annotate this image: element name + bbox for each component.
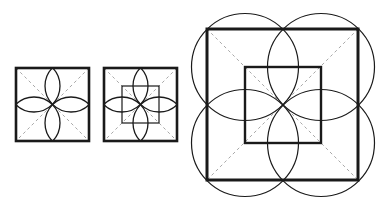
- figure-square-with-arcs-and-inner-square: [96, 60, 185, 149]
- geometric-construction-diagram: [0, 0, 389, 209]
- figure-four-circles-two-squares: [192, 14, 375, 197]
- diagram-canvas: [0, 0, 389, 209]
- figure-square-with-arcs: [8, 60, 97, 149]
